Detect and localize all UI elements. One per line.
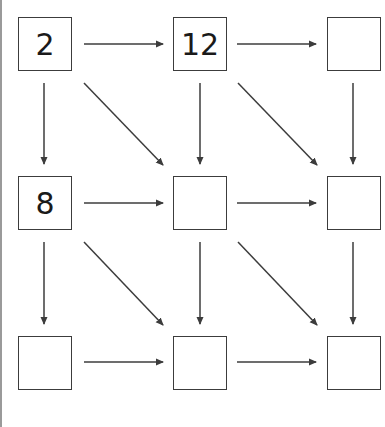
cell-r2c2 (327, 336, 381, 390)
cell-r0c2 (327, 17, 381, 71)
cell-r2c1 (173, 336, 227, 390)
arrow-r1c0-r2c1 (84, 242, 163, 325)
cell-r1c2 (327, 176, 381, 230)
arrow-r0c1-r1c2 (238, 83, 317, 165)
cell-r1c1 (173, 176, 227, 230)
cell-r1c0: 8 (18, 176, 72, 230)
cell-r0c0: 2 (18, 17, 72, 71)
arrow-r1c1-r2c2 (238, 242, 317, 325)
arrow-r0c0-r1c1 (84, 83, 163, 165)
cell-r2c0 (18, 336, 72, 390)
cell-r0c1: 12 (173, 17, 227, 71)
